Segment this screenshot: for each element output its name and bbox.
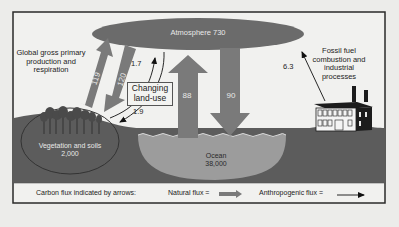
flux-1-9-label: 1.9 [133,108,143,117]
flux-88-label: 88 [176,91,198,100]
legend-anthropogenic-label: Anthropogenic flux = [259,189,323,196]
ocean-label: Ocean 38,000 [196,152,236,168]
gpp-label: Global gross primary production and resp… [14,49,88,75]
legend-natural-label: Natural flux = [168,189,209,196]
carbon-cycle-diagram: Atmosphere 730 Global gross primary prod… [0,0,399,227]
vegetation-label: Vegetation and soils 2,000 [28,142,112,158]
flux-1-7-label: 1.7 [131,60,141,69]
flux-6-3-label: 6.3 [283,63,293,72]
flux-90-label: 90 [220,91,242,100]
legend-title: Carbon flux indicated by arrows: [36,189,136,196]
land-use-box: Changing land-use [127,82,173,106]
legend: Carbon flux indicated by arrows: Natural… [14,184,384,203]
atmosphere-label: Atmosphere 730 [158,29,238,38]
fossil-fuel-label: Fossil fuel combustion and industrial pr… [309,47,369,82]
